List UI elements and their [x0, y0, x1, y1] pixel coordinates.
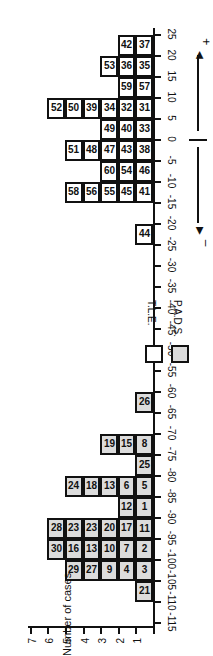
case-number: 8: [141, 439, 147, 450]
case-box: 25: [135, 455, 153, 476]
x-tick: [153, 517, 161, 519]
x-tick: [153, 223, 161, 225]
x-tick-label: -85: [166, 489, 177, 503]
case-box: 59: [118, 77, 136, 98]
case-box: 23: [65, 518, 83, 539]
case-number: 38: [139, 145, 150, 156]
case-number: 48: [86, 145, 97, 156]
y-tick-label: 4: [80, 638, 91, 644]
x-tick: [153, 55, 161, 57]
case-box: 49: [100, 119, 118, 140]
case-number: 56: [86, 187, 97, 198]
case-number: 9: [106, 565, 112, 576]
x-tick: [153, 391, 161, 393]
y-tick-label: 2: [115, 638, 126, 644]
x-tick: [153, 370, 161, 372]
case-box: 51: [65, 140, 83, 161]
x-tick-label: -5: [166, 156, 177, 165]
case-box: 34: [100, 98, 118, 119]
case-number: 40: [121, 124, 132, 135]
case-box: 42: [118, 35, 136, 56]
case-box: 23: [83, 518, 101, 539]
x-tick-label: -65: [166, 405, 177, 419]
case-box: 41: [135, 182, 153, 203]
x-tick: [153, 202, 161, 204]
case-number: 49: [103, 124, 114, 135]
x-tick-label: -115: [166, 612, 177, 631]
case-box: 9: [100, 560, 118, 581]
case-box: 56: [83, 182, 101, 203]
case-number: 47: [103, 145, 114, 156]
case-number: 52: [51, 103, 62, 114]
case-box: 37: [135, 35, 153, 56]
case-box: 33: [135, 119, 153, 140]
case-number: 6: [124, 481, 130, 492]
y-axis-label: Number of cases: [61, 573, 73, 656]
case-box: 28: [47, 518, 65, 539]
case-number: 12: [121, 502, 132, 513]
case-number: 57: [139, 82, 150, 93]
case-number: 35: [139, 61, 150, 72]
case-box: 5: [135, 476, 153, 497]
x-tick: [153, 76, 161, 78]
y-tick-label: 3: [97, 638, 108, 644]
case-box: 2: [135, 539, 153, 560]
case-number: 13: [103, 481, 114, 492]
case-number: 10: [103, 544, 114, 555]
case-box: 1: [135, 497, 153, 518]
x-tick-label: -15: [166, 195, 177, 209]
case-number: 5: [141, 481, 147, 492]
x-tick-label: -95: [166, 531, 177, 545]
case-number: 23: [68, 523, 79, 534]
x-tick: [153, 412, 161, 414]
case-box: 4: [118, 560, 136, 581]
case-box: 7: [118, 539, 136, 560]
case-number: 18: [86, 481, 97, 492]
case-number: 54: [121, 166, 132, 177]
x-tick: [153, 475, 161, 477]
case-number: 55: [103, 187, 114, 198]
case-number: 34: [103, 103, 114, 114]
case-number: 2: [141, 544, 147, 555]
case-number: 44: [139, 229, 150, 240]
case-number: 16: [68, 544, 79, 555]
case-number: 28: [51, 523, 62, 534]
x-tick-label: -10: [166, 174, 177, 188]
x-tick: [153, 34, 161, 36]
case-number: 50: [68, 103, 79, 114]
y-tick-label: 7: [27, 638, 38, 644]
case-number: 11: [139, 522, 150, 533]
x-tick: [153, 244, 161, 246]
legend-swatch: [145, 345, 163, 363]
case-number: 20: [103, 523, 114, 534]
case-number: 37: [139, 40, 150, 51]
case-box: 38: [135, 140, 153, 161]
case-number: 39: [86, 103, 97, 114]
y-tick: [83, 626, 85, 634]
case-box: 6: [118, 476, 136, 497]
case-number: 51: [68, 145, 79, 156]
x-tick-label: -30: [166, 258, 177, 272]
case-box: 11: [135, 518, 153, 539]
y-tick-label: 1: [132, 638, 143, 644]
case-box: 47: [100, 140, 118, 161]
positive-label: +: [199, 38, 213, 45]
case-box: 16: [65, 539, 83, 560]
x-tick: [153, 139, 161, 141]
y-tick: [100, 626, 102, 634]
x-tick-label: -100: [166, 549, 177, 569]
case-number: 32: [121, 103, 132, 114]
case-box: 30: [47, 539, 65, 560]
case-number: 17: [121, 523, 132, 534]
case-box: 15: [118, 434, 136, 455]
x-tick: [153, 433, 161, 435]
case-number: 4: [124, 565, 130, 576]
y-tick: [47, 626, 49, 634]
x-tick-label: 10: [166, 91, 177, 102]
x-tick-label: -20: [166, 216, 177, 230]
x-tick-label: -90: [166, 510, 177, 524]
case-box: 52: [47, 98, 65, 119]
case-number: 21: [139, 586, 150, 597]
case-box: 39: [83, 98, 101, 119]
